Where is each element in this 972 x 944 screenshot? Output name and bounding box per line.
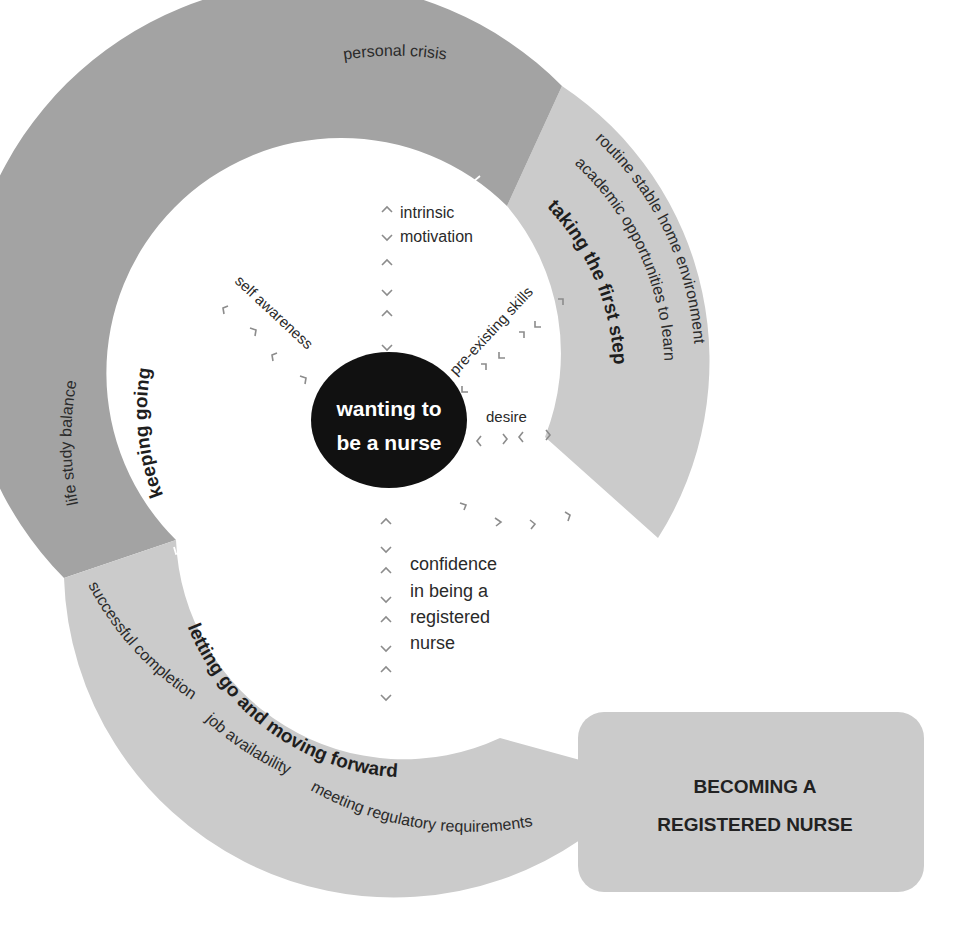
spoke-label-pre-existing-skills: pre-existing skills: [446, 283, 536, 378]
stage-letting-go-segment: [64, 540, 600, 898]
chevrons-desire: [477, 430, 550, 446]
chevrons-intrinsic-motivation: [382, 207, 392, 350]
spoke-label-desire: desire: [486, 408, 527, 425]
spoke-label-self-awareness: self awareness: [232, 272, 317, 353]
goal-line1: BECOMING A: [694, 776, 817, 797]
center-circle: [311, 352, 467, 488]
spoke-label-motivation: motivation: [400, 228, 473, 245]
stage-keeping-going-segment: [0, 0, 562, 578]
spoke-label-nurse: nurse: [410, 633, 455, 653]
goal-box: [578, 712, 924, 892]
center-line1: wanting to: [336, 397, 442, 420]
spoke-label-in-being-a: in being a: [410, 581, 489, 601]
stage-title-keeping-going: keeping going: [130, 366, 167, 501]
spoke-label-intrinsic: intrinsic: [400, 204, 454, 221]
center-line2: be a nurse: [336, 431, 441, 454]
chevrons-confidence: [381, 519, 391, 700]
nursing-journey-diagram: BECOMING A REGISTERED NURSE personal cri…: [0, 0, 972, 944]
chevrons-lower-right: [460, 503, 570, 529]
spoke-label-confidence: confidence: [410, 554, 497, 574]
goal-line2: REGISTERED NURSE: [657, 814, 852, 835]
spoke-label-registered: registered: [410, 607, 490, 627]
